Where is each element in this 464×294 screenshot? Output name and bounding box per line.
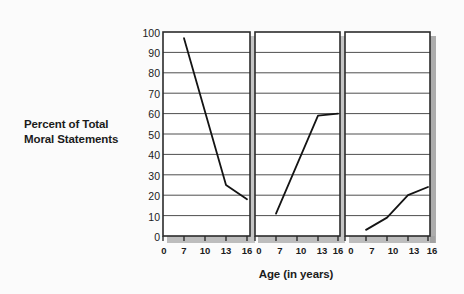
panel-conventional (255, 32, 340, 241)
chart-figure: Percent of Total Moral Statements Age (i… (0, 0, 464, 294)
plot-svg (0, 0, 464, 294)
panel-preconventional (163, 32, 250, 241)
panel-postconventional (345, 32, 430, 241)
